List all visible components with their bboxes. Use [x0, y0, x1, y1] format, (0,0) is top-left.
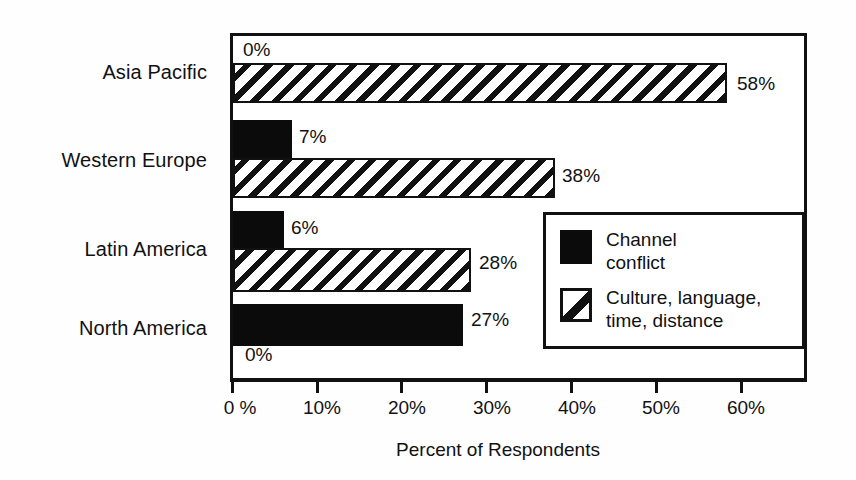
x-tick-60: [740, 381, 743, 393]
value-label-western-europe-culture: 38%: [562, 166, 600, 185]
value-label-north-america-channel-conflict: 27%: [471, 310, 509, 329]
value-label-western-europe-channel-conflict: 7%: [299, 127, 326, 146]
category-label-latin-america: Latin America: [85, 239, 207, 259]
legend-label-culture: Culture, language, time, distance: [606, 286, 761, 332]
x-tick-20: [400, 381, 403, 393]
x-tick-label-60: 60%: [727, 398, 765, 417]
x-tick-label-40: 40%: [558, 398, 596, 417]
x-tick-50: [655, 381, 658, 393]
x-tick-label-30: 30%: [473, 398, 511, 417]
legend-item-culture: Culture, language, time, distance: [560, 286, 761, 332]
legend-swatch-hatch-icon: [560, 288, 592, 322]
value-label-asia-pacific-culture: 58%: [737, 74, 775, 93]
x-tick-40: [570, 381, 573, 393]
legend-item-channel-conflict: Channel conflict: [560, 228, 677, 274]
chart-figure: Asia Pacific Western Europe Latin Americ…: [0, 0, 856, 480]
value-label-north-america-culture: 0%: [245, 345, 272, 364]
bar-asia-pacific-culture: [233, 63, 727, 103]
x-tick-0: [231, 381, 234, 393]
x-axis-title-text: Percent of Respondents: [256, 439, 600, 460]
x-tick-label-50: 50%: [642, 398, 680, 417]
legend-label-channel-conflict: Channel conflict: [606, 228, 677, 274]
bar-western-europe-channel-conflict: [233, 120, 292, 160]
bar-latin-america-culture: [233, 248, 471, 292]
bar-western-europe-culture: [233, 158, 555, 198]
category-label-western-europe: Western Europe: [61, 150, 207, 170]
x-tick-label-0: 0 %: [224, 398, 257, 417]
bar-latin-america-channel-conflict: [233, 211, 284, 250]
value-label-latin-america-channel-conflict: 6%: [291, 218, 318, 237]
category-label-north-america: North America: [79, 318, 207, 338]
bar-north-america-channel-conflict: [233, 304, 463, 346]
value-label-latin-america-culture: 28%: [479, 253, 517, 272]
value-label-asia-pacific-channel-conflict: 0%: [243, 40, 270, 59]
x-tick-label-10: 10%: [303, 398, 341, 417]
chart-legend: Channel conflict Culture, language, time…: [543, 212, 805, 349]
x-tick-10: [316, 381, 319, 393]
x-tick-30: [485, 381, 488, 393]
category-label-asia-pacific: Asia Pacific: [102, 62, 207, 82]
legend-swatch-solid-icon: [560, 230, 592, 264]
x-axis-title: Percent of Respondents: [0, 440, 856, 459]
x-tick-label-20: 20%: [388, 398, 426, 417]
